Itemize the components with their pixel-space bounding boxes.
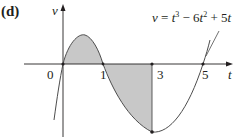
point-t1 (102, 63, 105, 66)
panel-label: (d) (1, 3, 19, 20)
tick-0: 0 (47, 67, 54, 82)
equation-leader-line (206, 31, 219, 56)
point-min (150, 130, 154, 134)
tick-3: 3 (157, 67, 164, 82)
point-t0 (61, 62, 64, 65)
point-t5 (201, 62, 204, 65)
tick-1: 1 (100, 67, 107, 82)
v-axis-label: v (52, 3, 58, 18)
t-axis-label: t (228, 67, 232, 82)
v-axis-arrow-icon (61, 4, 66, 11)
point-t3-axis (150, 62, 153, 65)
tick-5: 5 (202, 67, 209, 82)
t-axis-arrow-icon (226, 62, 233, 67)
equation-label: v = t3 − 6t2 + 5t (152, 10, 232, 25)
shaded-area-negative (103, 64, 152, 132)
velocity-graph: (d) v t 0 1 3 5 v = t3 − 6t2 + 5t (0, 0, 238, 137)
